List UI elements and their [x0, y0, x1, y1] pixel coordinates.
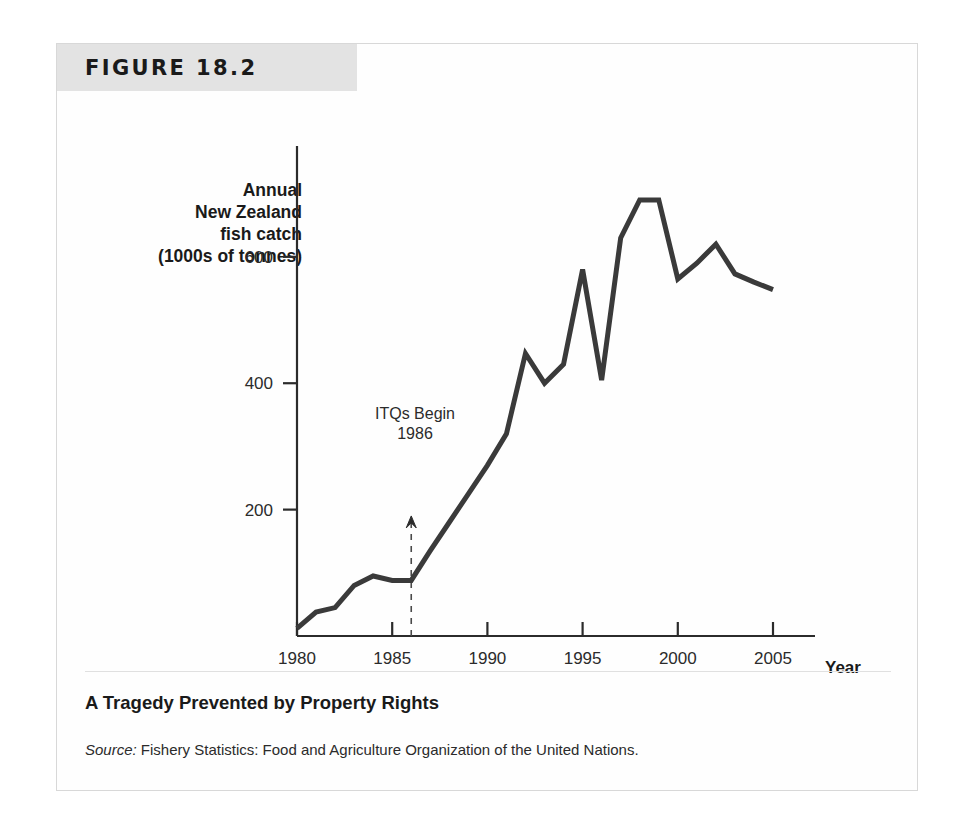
figure-frame: FIGURE 18.2 Annual New Zealand fish catc…	[56, 43, 918, 791]
figure-page: FIGURE 18.2 Annual New Zealand fish catc…	[0, 0, 974, 833]
chart-plot-area: Annual New Zealand fish catch (1000s of …	[57, 91, 917, 671]
y-axis-tick-label: 400	[245, 374, 273, 393]
x-axis-tick-label: 1985	[373, 649, 411, 668]
source-label: Source:	[85, 741, 137, 758]
line-chart-svg: 200400600198019851990199520002005	[57, 91, 917, 671]
x-axis-tick-label: 2005	[754, 649, 792, 668]
source-text: Fishery Statistics: Food and Agriculture…	[137, 741, 639, 758]
chart-axes	[283, 146, 815, 636]
caption-divider	[85, 671, 891, 672]
x-axis-tick-label: 1990	[468, 649, 506, 668]
fish-catch-line	[297, 200, 773, 628]
chart-data-series	[297, 200, 773, 628]
figure-caption-title: A Tragedy Prevented by Property Rights	[85, 692, 439, 714]
x-axis-tick-label: 1980	[278, 649, 316, 668]
y-axis-tick-label: 200	[245, 501, 273, 520]
chart-tick-labels: 200400600198019851990199520002005	[245, 248, 792, 668]
x-axis-title: Year	[825, 658, 861, 678]
y-axis-tick-label: 600	[245, 248, 273, 267]
figure-source-note: Source: Fishery Statistics: Food and Agr…	[85, 741, 639, 758]
x-axis-tick-label: 1995	[564, 649, 602, 668]
figure-number-label: FIGURE 18.2	[85, 56, 258, 80]
x-axis-tick-label: 2000	[659, 649, 697, 668]
